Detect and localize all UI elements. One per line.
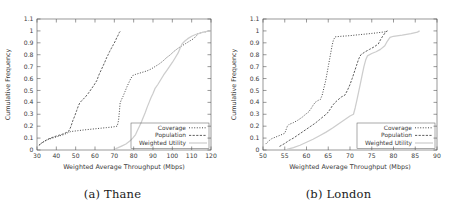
series-line-coverage — [266, 31, 388, 144]
y-tick-label: 0.6 — [24, 75, 34, 82]
y-tick-label: 0.5 — [24, 87, 34, 94]
x-tick-label: 100 — [167, 152, 179, 159]
panel-caption-london: (b) London — [226, 187, 451, 201]
panel-caption-thane: (a) Thane — [0, 187, 225, 201]
x-tick-label: 60 — [91, 152, 99, 159]
y-tick-label: 0.3 — [250, 110, 260, 117]
y-tick-label: 0.8 — [24, 51, 34, 58]
x-tick-label: 85 — [411, 152, 419, 159]
y-tick-label: 0.1 — [24, 134, 34, 141]
series-line-population — [39, 32, 120, 146]
x-tick-label: 50 — [72, 152, 80, 159]
y-tick-label: 0.2 — [250, 122, 260, 129]
y-tick-label: 0.5 — [250, 87, 260, 94]
x-tick-label: 110 — [186, 152, 198, 159]
chart-panel-thane: 3040506070809010011012000.10.20.30.40.50… — [0, 0, 225, 205]
figure-container: 3040506070809010011012000.10.20.30.40.50… — [0, 0, 451, 205]
x-tick-label: 50 — [259, 152, 267, 159]
y-tick-label: 0.1 — [250, 134, 260, 141]
series-line-weighted-utility — [115, 31, 210, 149]
x-axis-title: Weighted Average Throughput (Mbps) — [63, 163, 185, 171]
y-tick-label: 0.4 — [24, 98, 34, 105]
y-axis-title: Cumulative Frequency — [230, 49, 238, 121]
y-tick-label: 0.8 — [250, 51, 260, 58]
y-tick-label: 0.7 — [250, 63, 260, 70]
y-tick-label: 1.1 — [24, 15, 34, 22]
chart-panel-london: 50556065707580859000.10.20.30.40.50.60.7… — [226, 0, 451, 205]
y-tick-label: 0 — [256, 146, 260, 153]
series-line-population — [280, 31, 387, 147]
cdf-plot-thane: 3040506070809010011012000.10.20.30.40.50… — [0, 0, 225, 175]
y-tick-label: 0.2 — [24, 122, 34, 129]
legend-label-population: Population — [381, 132, 412, 139]
cdf-plot-london: 50556065707580859000.10.20.30.40.50.60.7… — [226, 0, 451, 175]
x-tick-label: 30 — [33, 152, 41, 159]
legend-label-coverage: Coverage — [384, 125, 413, 132]
x-tick-label: 90 — [149, 152, 157, 159]
x-tick-label: 80 — [130, 152, 138, 159]
y-tick-label: 1.1 — [250, 15, 260, 22]
x-axis-title: Weighted Average Throughput (Mbps) — [289, 163, 411, 171]
y-tick-label: 0.6 — [250, 75, 260, 82]
y-tick-label: 1 — [256, 27, 260, 34]
x-tick-label: 40 — [52, 152, 60, 159]
x-tick-label: 70 — [346, 152, 354, 159]
legend-label-weighted-utility: Weighted Utility — [365, 140, 413, 147]
y-tick-label: 0.9 — [250, 39, 260, 46]
x-tick-label: 90 — [433, 152, 441, 159]
y-tick-label: 0.3 — [24, 110, 34, 117]
y-axis-title: Cumulative Frequency — [4, 49, 12, 121]
y-tick-label: 0 — [30, 146, 34, 153]
x-tick-label: 65 — [324, 152, 332, 159]
x-tick-label: 55 — [281, 152, 289, 159]
y-tick-label: 0.9 — [24, 39, 34, 46]
x-tick-label: 80 — [390, 152, 398, 159]
x-tick-label: 60 — [303, 152, 311, 159]
y-tick-label: 0.7 — [24, 63, 34, 70]
legend-label-population: Population — [155, 132, 186, 139]
x-tick-label: 70 — [110, 152, 118, 159]
y-tick-label: 0.4 — [250, 98, 260, 105]
x-tick-label: 120 — [205, 152, 217, 159]
x-tick-label: 75 — [368, 152, 376, 159]
legend-label-weighted-utility: Weighted Utility — [139, 140, 187, 147]
y-tick-label: 1 — [30, 27, 34, 34]
legend-label-coverage: Coverage — [158, 125, 187, 132]
